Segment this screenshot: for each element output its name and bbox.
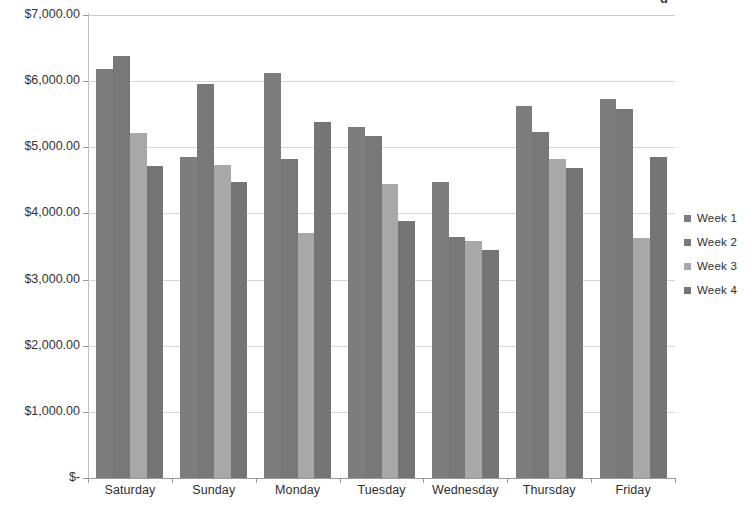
legend-item: Week 4 xyxy=(684,278,756,302)
bar xyxy=(147,166,164,478)
x-axis-tick xyxy=(675,478,676,483)
legend-label: Week 1 xyxy=(697,212,737,224)
bar xyxy=(348,127,365,478)
y-axis-tick-label: $- xyxy=(0,470,80,484)
bar xyxy=(382,184,399,478)
bar xyxy=(465,241,482,478)
bar xyxy=(214,165,231,478)
bar xyxy=(616,109,633,478)
bar xyxy=(130,133,147,478)
bar-group xyxy=(591,15,675,478)
legend-item: Week 1 xyxy=(684,206,756,230)
bar xyxy=(600,99,617,478)
bar-group xyxy=(172,15,256,478)
legend-swatch-icon xyxy=(684,287,691,294)
gridline xyxy=(88,478,675,479)
bar xyxy=(365,136,382,478)
bar-group xyxy=(340,15,424,478)
bar xyxy=(113,56,130,478)
plot-area xyxy=(88,15,675,478)
y-axis-tick-label: $1,000.00 xyxy=(0,404,80,418)
y-axis-tick-label: $2,000.00 xyxy=(0,338,80,352)
bar xyxy=(281,159,298,478)
bar-cluster xyxy=(96,15,163,478)
legend: Week 1Week 2Week 3Week 4 xyxy=(684,206,756,302)
bar xyxy=(549,159,566,478)
x-axis-labels: SaturdaySundayMondayTuesdayWednesdayThur… xyxy=(88,483,675,519)
bar xyxy=(432,182,449,478)
bar xyxy=(566,168,583,478)
bar-groups xyxy=(88,15,675,478)
bar xyxy=(180,157,197,478)
bar-chart: g $7,000.00$6,000.00$5,000.00$4,000.00$3… xyxy=(0,0,756,519)
bar-group xyxy=(423,15,507,478)
legend-item: Week 3 xyxy=(684,254,756,278)
legend-swatch-icon xyxy=(684,263,691,270)
legend-label: Week 2 xyxy=(697,236,737,248)
chart-title-clipped: g xyxy=(660,0,694,3)
bar xyxy=(650,157,667,478)
y-axis-tick-label: $5,000.00 xyxy=(0,139,80,153)
bar xyxy=(398,221,415,478)
bar xyxy=(264,73,281,478)
y-axis-tick-label: $7,000.00 xyxy=(0,7,80,21)
bar-cluster xyxy=(348,15,415,478)
bar-group xyxy=(88,15,172,478)
bar xyxy=(314,122,331,479)
bar xyxy=(449,237,466,478)
legend-label: Week 3 xyxy=(697,260,737,272)
bar xyxy=(633,238,650,478)
bar-cluster xyxy=(264,15,331,478)
bar xyxy=(482,250,499,478)
x-axis-tick-label: Sunday xyxy=(172,483,256,498)
legend-label: Week 4 xyxy=(697,284,737,296)
bar xyxy=(516,106,533,478)
y-axis-tick-label: $6,000.00 xyxy=(0,73,80,87)
bar-cluster xyxy=(600,15,667,478)
y-axis-tick-label: $4,000.00 xyxy=(0,205,80,219)
bar xyxy=(96,69,113,478)
x-axis-tick-label: Wednesday xyxy=(423,483,507,498)
legend-item: Week 2 xyxy=(684,230,756,254)
bar xyxy=(532,132,549,478)
bar-cluster xyxy=(516,15,583,478)
bar-group xyxy=(507,15,591,478)
x-axis-tick-label: Tuesday xyxy=(340,483,424,498)
bar-cluster xyxy=(432,15,499,478)
x-axis-tick-label: Thursday xyxy=(507,483,591,498)
bar xyxy=(231,182,248,478)
x-axis-tick-label: Saturday xyxy=(88,483,172,498)
bar xyxy=(197,84,214,478)
x-axis-tick-label: Monday xyxy=(256,483,340,498)
y-axis-tick-label: $3,000.00 xyxy=(0,272,80,286)
legend-swatch-icon xyxy=(684,215,691,222)
x-axis-tick-label: Friday xyxy=(591,483,675,498)
bar-group xyxy=(256,15,340,478)
legend-swatch-icon xyxy=(684,239,691,246)
bar-cluster xyxy=(180,15,247,478)
bar xyxy=(298,233,315,478)
